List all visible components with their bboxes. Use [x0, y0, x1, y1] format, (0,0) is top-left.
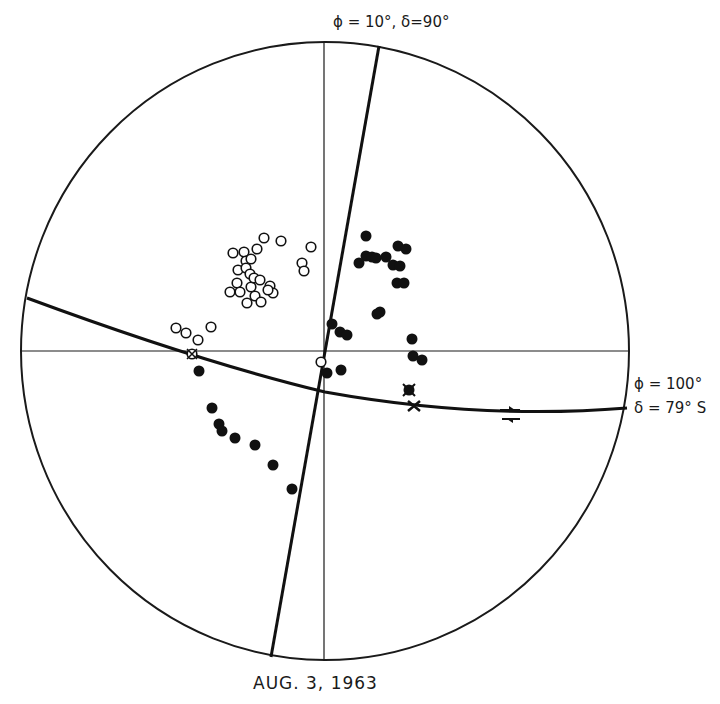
open-circle — [206, 322, 216, 332]
slip-arrow-icon — [500, 406, 520, 423]
filled-circle — [361, 231, 372, 242]
filled-circle — [322, 368, 333, 379]
plane1-label: ϕ = 10°, δ=90° — [333, 13, 449, 31]
filled-circle — [194, 366, 205, 377]
filled-circle — [268, 460, 279, 471]
filled-circle — [342, 330, 353, 341]
filled-circle — [230, 433, 241, 444]
open-circle — [259, 233, 269, 243]
filled-circle — [287, 484, 298, 495]
date-title: AUG. 3, 1963 — [253, 673, 378, 693]
open-circle — [263, 285, 273, 295]
filled-circles-compression — [194, 231, 428, 495]
filled-circle — [250, 440, 261, 451]
open-circle — [181, 328, 191, 338]
plane2-dip-label: δ = 79° S — [634, 399, 706, 417]
open-circle — [225, 287, 235, 297]
open-circle — [235, 287, 245, 297]
open-circle — [232, 278, 242, 288]
open-circle — [242, 298, 252, 308]
open-circle — [193, 335, 203, 345]
filled-circle — [217, 426, 228, 437]
filled-circle — [399, 278, 410, 289]
filled-circle — [417, 355, 428, 366]
open-circle — [316, 357, 326, 367]
open-circle — [255, 275, 265, 285]
filled-circle — [327, 319, 338, 330]
open-circle — [276, 236, 286, 246]
open-circle — [306, 242, 316, 252]
open-circle — [252, 244, 262, 254]
open-circle — [171, 323, 181, 333]
plane2-strike-label: ϕ = 100° — [634, 375, 702, 393]
open-circles-dilatation — [171, 233, 326, 367]
stereonet-diagram — [0, 0, 720, 704]
open-circle — [246, 254, 256, 264]
filled-circle — [207, 403, 218, 414]
filled-circle — [407, 334, 418, 345]
filled-circle — [375, 307, 386, 318]
filled-circle — [354, 258, 365, 269]
filled-circle — [395, 261, 406, 272]
nodal-plane-2 — [27, 298, 627, 412]
filled-circle — [401, 244, 412, 255]
filled-circle — [336, 365, 347, 376]
open-circle — [246, 282, 256, 292]
open-circle — [228, 248, 238, 258]
open-circle — [256, 297, 266, 307]
open-circle — [299, 266, 309, 276]
filled-circle — [371, 253, 382, 264]
